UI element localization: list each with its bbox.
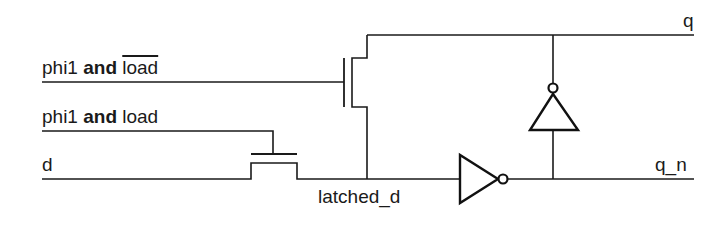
label-phi1-and-load-bar: phi1 and load: [42, 58, 158, 77]
wire-phi1-and-load: [42, 131, 273, 154]
input-transistor: [42, 154, 460, 179]
label-and-operator: and: [83, 57, 117, 78]
feedback-transistor: [344, 35, 367, 179]
forward-inverter-triangle: [460, 155, 498, 203]
forward-inverter: [460, 155, 508, 203]
feedback-transistor-channel: [352, 35, 367, 179]
feedback-inverter-bubble: [549, 84, 558, 93]
label-q-n: q_n: [655, 155, 687, 174]
label-phi1: phi1: [42, 57, 78, 78]
feedback-inverter: [530, 35, 578, 179]
label-d: d: [42, 155, 53, 174]
label-and-operator: and: [83, 106, 117, 127]
label-load-negated: load: [122, 57, 158, 78]
forward-inverter-bubble: [499, 175, 508, 184]
label-phi1-and-load: phi1 and load: [42, 107, 158, 126]
label-load: load: [122, 106, 158, 127]
label-phi1: phi1: [42, 106, 78, 127]
feedback-inverter-triangle: [530, 94, 578, 130]
label-q: q: [683, 11, 694, 30]
input-transistor-channel: [42, 163, 460, 179]
label-latched-d: latched_d: [318, 187, 400, 206]
